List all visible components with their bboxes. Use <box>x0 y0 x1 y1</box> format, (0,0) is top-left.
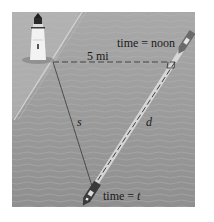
lighthouse-ship-figure: time = noon 5 mi s d time = t <box>0 0 214 222</box>
distance-label: 5 mi <box>87 50 109 62</box>
time-t-variable: t <box>137 189 140 203</box>
time-noon-label: time = noon <box>117 37 175 49</box>
d-label: d <box>146 116 152 128</box>
time-t-label: time = t <box>103 190 140 202</box>
time-t-text: time = <box>103 189 137 203</box>
s-label: s <box>77 116 82 128</box>
